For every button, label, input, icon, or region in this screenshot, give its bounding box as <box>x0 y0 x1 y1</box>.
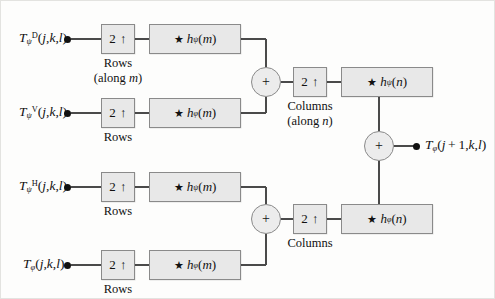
filter-rows-psi-2[interactable]: ★ hψ(m) <box>149 172 241 202</box>
filter-rows-phi-1[interactable]: ★ hφ(m) <box>149 98 241 128</box>
upsampler-rows-3[interactable]: 2 ↑ <box>101 172 135 202</box>
filter-columns-psi[interactable]: ★ hψ(n) <box>341 67 433 97</box>
upsampler-rows-1-caption-axis: (along m) <box>89 71 147 86</box>
upsampler-rows-1[interactable]: 2 ↑ <box>101 24 135 54</box>
input-label-diagonal: TψD(j,k,l) <box>19 30 67 46</box>
input-port-diagonal[interactable] <box>64 36 71 43</box>
filter-columns-phi[interactable]: ★ hφ(n) <box>341 204 433 234</box>
upsampler-columns-2-caption: Columns <box>277 236 343 251</box>
upsampler-columns-1[interactable]: 2 ↑ <box>293 67 327 97</box>
filter-rows-psi-1[interactable]: ★ hψ(m) <box>149 24 241 54</box>
output-label-approximation: Tφ(j + 1,k,l) <box>425 137 486 153</box>
adder-final[interactable]: + <box>364 131 394 161</box>
input-port-horizontal[interactable] <box>64 184 71 191</box>
wire-layer <box>1 1 495 299</box>
output-port-approximation[interactable] <box>413 143 420 150</box>
input-label-approximation: Tφ(j,k,l) <box>23 256 64 272</box>
upsampler-rows-3-caption: Rows <box>96 204 140 219</box>
filter-rows-phi-2[interactable]: ★ hφ(m) <box>149 250 241 280</box>
upsampler-rows-4-caption: Rows <box>96 282 140 297</box>
idwt-filter-bank-diagram: TψD(j,k,l) TψV(j,k,l) TψH(j,k,l) Tφ(j,k,… <box>0 0 495 299</box>
adder-top[interactable]: + <box>251 67 281 97</box>
input-port-vertical[interactable] <box>64 110 71 117</box>
input-port-approximation[interactable] <box>64 262 71 269</box>
input-label-horizontal: TψH(j,k,l) <box>19 178 67 194</box>
upsampler-rows-1-caption: Rows <box>96 56 140 71</box>
upsampler-columns-2[interactable]: 2 ↑ <box>293 204 327 234</box>
upsampler-columns-1-caption-axis: (along n) <box>279 114 341 129</box>
upsampler-rows-4[interactable]: 2 ↑ <box>101 250 135 280</box>
upsampler-rows-2[interactable]: 2 ↑ <box>101 98 135 128</box>
input-label-vertical: TψV(j,k,l) <box>19 104 67 120</box>
adder-bottom[interactable]: + <box>251 204 281 234</box>
upsampler-columns-1-caption: Columns <box>277 99 343 114</box>
upsampler-rows-2-caption: Rows <box>96 130 140 145</box>
